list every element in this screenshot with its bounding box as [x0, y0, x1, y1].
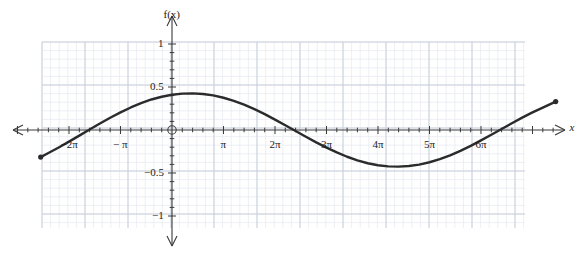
grid-minor — [42, 42, 525, 228]
y-tick-label-3: −1 — [152, 209, 164, 221]
x-tick-label-0: −2π — [61, 138, 78, 150]
grid-major — [42, 42, 525, 228]
curve-endpoint-left — [38, 154, 43, 159]
curve-endpoint-right — [553, 99, 558, 104]
x-tick-label-1: − π — [113, 138, 128, 150]
x-axis-title: x — [570, 121, 575, 133]
x-tick-label-5: 4π — [373, 138, 384, 150]
y-tick-label-1: 0.5 — [150, 80, 164, 92]
x-tick-label-2: π — [221, 138, 227, 150]
x-tick-label-6: 5π — [424, 138, 435, 150]
y-tick-label-0: 1 — [158, 37, 164, 49]
y-axis-title: f(x) — [164, 8, 181, 20]
x-tick-label-4: 3π — [321, 138, 332, 150]
y-tick-label-2: −0.5 — [144, 166, 164, 178]
chart-figure: −2π− ππ2π3π4π5π6π10.5−0.5−1f(x)x — [0, 0, 582, 256]
chart-canvas — [0, 0, 582, 256]
x-tick-label-3: 2π — [270, 138, 281, 150]
x-tick-label-7: 6π — [476, 138, 487, 150]
